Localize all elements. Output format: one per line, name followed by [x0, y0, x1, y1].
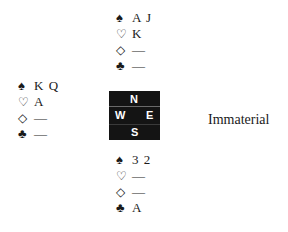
- north-spades-row: ♠ A J: [116, 10, 152, 26]
- west-hearts-row: ♡ A: [18, 94, 59, 110]
- south-hearts: —: [132, 168, 146, 184]
- north-clubs-row: ♣ —: [116, 58, 152, 74]
- compass-north: N: [130, 93, 138, 105]
- north-hearts: K: [132, 26, 142, 42]
- west-diamonds-row: ◇ —: [18, 110, 59, 126]
- west-clubs: —: [34, 126, 48, 142]
- north-hearts-row: ♡ K: [116, 26, 152, 42]
- south-hearts-row: ♡ —: [116, 168, 151, 184]
- east-immaterial-label: Immaterial: [208, 112, 269, 127]
- compass-divider: [109, 124, 160, 125]
- south-diamonds-row: ◇ —: [116, 184, 151, 200]
- west-hearts: A: [34, 94, 44, 110]
- west-hand: ♠ K Q ♡ A ◇ — ♣ —: [18, 78, 59, 142]
- heart-icon: ♡: [116, 168, 132, 184]
- club-icon: ♣: [116, 200, 132, 216]
- spade-icon: ♠: [116, 152, 132, 168]
- diamond-icon: ◇: [116, 184, 132, 200]
- club-icon: ♣: [116, 58, 132, 74]
- south-clubs-row: ♣ A: [116, 200, 151, 216]
- compass-south: S: [131, 126, 138, 138]
- north-hand: ♠ A J ♡ K ◇ — ♣ —: [116, 10, 152, 74]
- south-hand: ♠ 3 2 ♡ — ◇ — ♣ A: [116, 152, 151, 216]
- south-spades: 3 2: [132, 152, 151, 168]
- west-diamonds: —: [34, 110, 48, 126]
- club-icon: ♣: [18, 126, 34, 142]
- south-spades-row: ♠ 3 2: [116, 152, 151, 168]
- spade-icon: ♠: [116, 10, 132, 26]
- heart-icon: ♡: [116, 26, 132, 42]
- compass-west: W: [115, 109, 125, 121]
- south-diamonds: —: [132, 184, 146, 200]
- north-clubs: —: [132, 58, 146, 74]
- west-spades: K Q: [34, 78, 59, 94]
- diamond-icon: ◇: [116, 42, 132, 58]
- north-diamonds-row: ◇ —: [116, 42, 152, 58]
- spade-icon: ♠: [18, 78, 34, 94]
- compass-box: N W E S: [109, 91, 160, 140]
- west-clubs-row: ♣ —: [18, 126, 59, 142]
- north-spades: A J: [132, 10, 152, 26]
- compass-divider: [109, 106, 160, 107]
- heart-icon: ♡: [18, 94, 34, 110]
- east-hand: Immaterial: [208, 112, 269, 128]
- compass-east: E: [146, 109, 153, 121]
- diamond-icon: ◇: [18, 110, 34, 126]
- west-spades-row: ♠ K Q: [18, 78, 59, 94]
- north-diamonds: —: [132, 42, 146, 58]
- south-clubs: A: [132, 200, 142, 216]
